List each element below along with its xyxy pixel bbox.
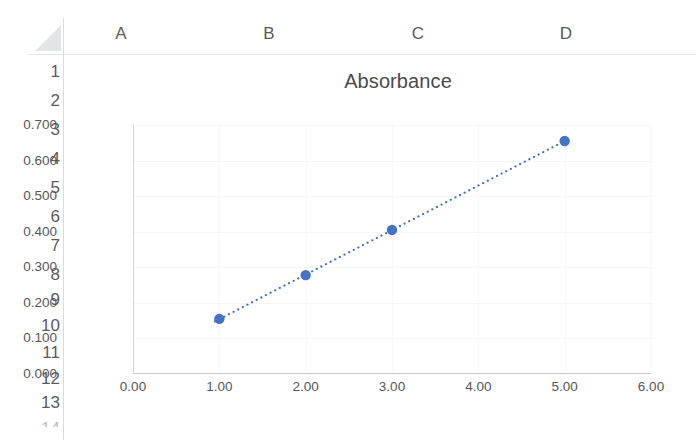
data-point-marker[interactable]	[387, 225, 397, 235]
data-point-marker[interactable]	[559, 136, 569, 146]
column-header-d[interactable]: D	[536, 24, 596, 44]
header-divider	[28, 54, 696, 55]
column-header-c[interactable]: C	[388, 24, 448, 44]
y-tick-label: 0.600	[3, 154, 57, 168]
row-header-14[interactable]: 14	[28, 420, 60, 427]
data-series-layer	[133, 125, 651, 374]
x-axis-tick-labels: 0.001.002.003.004.005.006.00	[133, 380, 651, 400]
x-tick-label: 6.00	[621, 380, 681, 394]
data-point-marker[interactable]	[300, 270, 310, 280]
select-all-triangle-icon	[35, 25, 61, 51]
row-header-1[interactable]: 1	[28, 63, 60, 80]
gridline-vertical	[651, 125, 652, 374]
row-header-13[interactable]: 13	[28, 394, 60, 411]
x-tick-label: 5.00	[535, 380, 595, 394]
y-tick-label: 0.700	[3, 118, 57, 132]
column-header-b[interactable]: B	[239, 24, 299, 44]
plot-area	[133, 125, 651, 374]
y-tick-label: 0.500	[3, 189, 57, 203]
row-header-2[interactable]: 2	[28, 92, 60, 109]
y-tick-label: 0.400	[3, 225, 57, 239]
y-axis-tick-labels: 0.0000.1000.2000.3000.4000.5000.6000.700	[1, 125, 57, 374]
x-tick-label: 2.00	[276, 380, 336, 394]
x-tick-label: 4.00	[448, 380, 508, 394]
chart-title: Absorbance	[118, 70, 678, 93]
x-tick-label: 1.00	[189, 380, 249, 394]
select-all-button[interactable]	[28, 18, 63, 53]
column-header-row: ABCD	[63, 18, 696, 54]
y-tick-label: 0.200	[3, 296, 57, 310]
data-point-marker[interactable]	[214, 314, 224, 324]
spreadsheet-canvas: ABCD 1234567891011121314 Absorbance 0.00…	[0, 0, 696, 440]
x-tick-label: 3.00	[362, 380, 422, 394]
column-header-a[interactable]: A	[91, 24, 151, 44]
y-tick-label: 0.000	[3, 367, 57, 381]
x-tick-label: 0.00	[103, 380, 163, 394]
y-tick-label: 0.100	[3, 331, 57, 345]
chart-object[interactable]: Absorbance 0.0000.1000.2000.3000.4000.50…	[63, 56, 693, 416]
y-tick-label: 0.300	[3, 260, 57, 274]
